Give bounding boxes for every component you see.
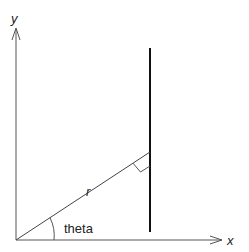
angle-arc <box>50 218 54 240</box>
polar-line-diagram: y x r theta <box>0 0 249 252</box>
x-axis-label: x <box>226 233 234 248</box>
angle-label: theta <box>64 221 94 236</box>
y-axis-label: y <box>10 11 19 26</box>
y-axis <box>12 28 20 240</box>
x-axis <box>16 236 222 244</box>
right-angle-marker <box>133 163 150 172</box>
radius-label: r <box>86 184 91 199</box>
